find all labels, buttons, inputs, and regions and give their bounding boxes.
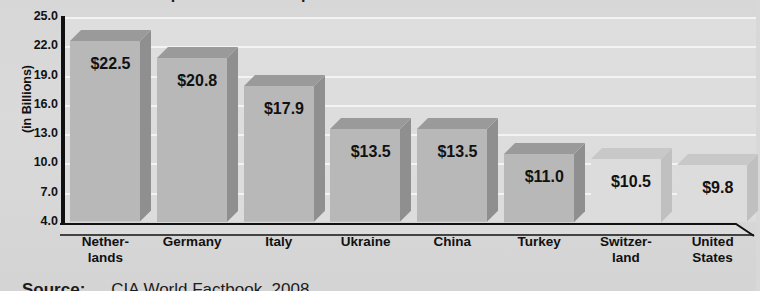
bar-value-label: $20.8 [157, 72, 238, 90]
bar-value-label: $13.5 [330, 143, 411, 161]
y-axis-tick-label: 19.0 [12, 70, 58, 80]
chart-title-cropped: Top Natural Gas Importers [0, 0, 756, 7]
bar-value-label: $22.5 [70, 55, 151, 73]
x-axis-category-label-line2: States [692, 250, 733, 265]
y-axis-tick-labels: 25.022.019.016.013.010.07.04.0 [0, 0, 58, 291]
bar-3d-shape-icon [330, 118, 413, 224]
y-axis-tick-label: 13.0 [12, 128, 58, 138]
x-axis-category-label: Switzer-land [579, 234, 674, 265]
x-axis-category-label: UnitedStates [665, 234, 760, 265]
bar-3d-shape-icon [417, 118, 500, 224]
bar-3d-shape-icon [244, 75, 327, 224]
bar-3: $17.9 [244, 75, 314, 222]
y-axis-tick-label: 10.0 [12, 157, 58, 167]
bar-8: $9.8 [677, 154, 747, 222]
source-note-cropped: Source:CIA World Factbook, 2008 [0, 280, 756, 291]
bar-value-label: $11.0 [504, 168, 585, 186]
bar-value-label: $13.5 [417, 143, 498, 161]
y-axis-line [61, 16, 65, 223]
x-axis-category-label: Turkey [492, 234, 587, 250]
x-axis-category-label: Ukraine [318, 234, 413, 250]
y-axis-tick-label: 22.0 [12, 40, 58, 50]
bar-2: $20.8 [157, 47, 227, 222]
bar-value-label: $17.9 [244, 100, 325, 118]
bar-4: $13.5 [330, 118, 400, 222]
x-axis-category-label: Germany [145, 234, 240, 250]
bar-1: $22.5 [70, 30, 140, 222]
x-axis-category-label-line2: land [612, 250, 640, 265]
bar-6: $11.0 [504, 143, 574, 222]
bar-5: $13.5 [417, 118, 487, 222]
source-text: CIA World Factbook, 2008 [111, 280, 309, 291]
chart-title-text: Top Natural Gas Importers [152, 0, 358, 3]
y-axis-tick-label: 4.0 [12, 216, 58, 226]
bar-value-label: $10.5 [591, 173, 672, 191]
y-axis-tick-label: 16.0 [12, 99, 58, 109]
y-axis-tick-label: 7.0 [12, 187, 58, 197]
source-label: Source: [22, 280, 85, 291]
x-axis-category-label: Italy [232, 234, 327, 250]
bar-7: $10.5 [591, 148, 661, 222]
gridline [62, 17, 756, 19]
x-axis-category-label: Nether-lands [58, 234, 153, 265]
x-axis-category-label: China [405, 234, 500, 250]
bar-value-label: $9.8 [677, 179, 758, 197]
y-axis-tick-label: 25.0 [12, 11, 58, 21]
x-axis-category-label-line2: lands [88, 250, 123, 265]
